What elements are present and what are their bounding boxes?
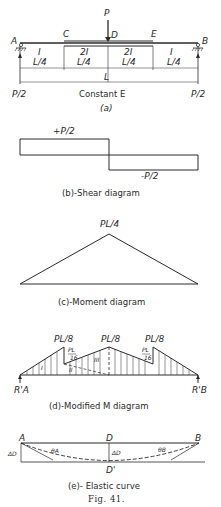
modified-reaction-left-arrow-icon xyxy=(18,375,22,379)
figure-number-label: Fig. 41. xyxy=(88,494,125,504)
panel-e-caption: (e)- Elastic curve xyxy=(68,481,140,491)
elastic-curve xyxy=(21,443,199,461)
length-label-1: L/4 xyxy=(33,57,47,67)
reaction-right-arrow-icon xyxy=(196,53,200,58)
point-e-label: E xyxy=(151,29,157,39)
material-note: Constant E xyxy=(79,89,125,99)
panel-d-modified-m-diagram: PL/8 PL/8 PL/8 xyxy=(14,334,207,411)
shear-diagram-outline xyxy=(20,139,198,170)
point-c-label: C xyxy=(63,29,70,39)
panel-d-caption: (d)-Modified M diagram xyxy=(49,401,148,411)
reaction-left-label: P/2 xyxy=(12,89,26,99)
modified-reaction-right-arrow-icon xyxy=(196,375,200,379)
step-left-numerator: PL xyxy=(68,346,75,353)
span-label: L xyxy=(104,72,109,82)
point-b-label: B xyxy=(202,36,208,46)
step-left-denominator: 16 xyxy=(70,354,78,361)
modified-peak-mid-label: PL/8 xyxy=(101,334,120,344)
tangent-a-line xyxy=(21,443,53,460)
load-label: P xyxy=(104,8,110,18)
panel-b-caption: (b)-Shear diagram xyxy=(62,188,140,198)
elastic-point-a-label: A xyxy=(18,433,25,443)
delta-mid-label: ΔD xyxy=(111,449,121,456)
panel-c-caption: (c)-Moment diagram xyxy=(58,297,145,307)
elastic-point-d-prime-label: D' xyxy=(106,465,115,475)
modified-m-outline xyxy=(20,347,198,375)
reaction-right-label: P/2 xyxy=(191,89,205,99)
panel-a-beam-diagram: P A B C D E I 2I 2I I xyxy=(10,8,208,113)
region-label-1: I xyxy=(41,364,43,371)
figure-41: P A B C D E I 2I 2I I xyxy=(0,0,221,507)
inertia-label-3: 2I xyxy=(124,47,133,57)
modified-peak-right-label: PL/8 xyxy=(145,334,164,344)
region-label-2: II xyxy=(69,366,73,373)
panel-c-moment-diagram: PL/4 (c)-Moment diagram xyxy=(20,219,198,307)
panel-e-elastic-curve: A D B ΔD ΔD θA θB D' (e)- Elastic curve xyxy=(7,433,205,491)
point-a-label: A xyxy=(10,36,17,46)
elastic-point-d-label: D xyxy=(106,433,113,443)
reaction-left-arrow-icon xyxy=(18,53,22,58)
panel-a-caption: (a) xyxy=(100,103,113,113)
modified-m-hatching xyxy=(27,349,189,375)
modified-peak-left-label: PL/8 xyxy=(54,334,73,344)
modified-reaction-right-label: R'B xyxy=(192,385,207,395)
elastic-point-b-label: B xyxy=(195,433,201,443)
length-label-2: L/4 xyxy=(77,57,91,67)
region-label-3: III xyxy=(94,356,100,363)
length-label-3: L/4 xyxy=(122,57,136,67)
shear-positive-label: +P/2 xyxy=(53,126,75,136)
inertia-label-4: I xyxy=(170,47,173,57)
length-label-4: L/4 xyxy=(167,57,181,67)
moment-peak-label: PL/4 xyxy=(100,219,119,229)
delta-left-label: ΔD xyxy=(7,450,17,457)
theta-a-label: θA xyxy=(51,447,59,454)
inertia-label-2: 2I xyxy=(80,47,89,57)
inertia-label-1: I xyxy=(38,47,41,57)
step-right-denominator: 16 xyxy=(144,354,152,361)
step-right-numerator: PL xyxy=(142,346,149,353)
shear-negative-label: -P/2 xyxy=(141,171,159,181)
panel-b-shear-diagram: +P/2 -P/2 (b)-Shear diagram xyxy=(20,126,198,198)
moment-diagram-triangle xyxy=(20,234,198,284)
theta-b-label: θB xyxy=(158,446,166,453)
point-d-label: D xyxy=(111,30,118,40)
modified-reaction-left-label: R'A xyxy=(14,385,29,395)
